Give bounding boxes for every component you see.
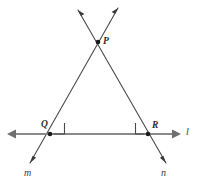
line-m-arrowhead-top [112, 8, 118, 14]
line-l-arrowhead-right [172, 130, 181, 139]
line-n [78, 10, 166, 163]
right-angle-marker-q [54, 123, 65, 134]
line-n-arrowhead-bottom [160, 156, 166, 163]
point-label-q: Q [41, 120, 48, 130]
line-m-arrowhead-bottom [30, 156, 36, 163]
geometry-figure: P Q R l m n [0, 0, 199, 184]
line-l-arrowhead-left [7, 130, 16, 139]
geometry-canvas [0, 0, 199, 184]
line-label-m: m [24, 168, 31, 178]
point-q-dot [48, 132, 53, 137]
point-p-dot [96, 40, 101, 45]
point-label-p: P [103, 37, 109, 47]
right-angle-marker-r [136, 123, 145, 134]
line-n-arrowhead-top [78, 10, 84, 16]
line-n-segment [78, 10, 166, 163]
line-label-n: n [161, 168, 166, 178]
point-label-r: R [152, 121, 158, 131]
line-m [30, 8, 118, 163]
line-l [7, 130, 181, 139]
point-r-dot [146, 132, 151, 137]
line-m-segment [30, 8, 118, 163]
line-label-l: l [186, 127, 189, 137]
